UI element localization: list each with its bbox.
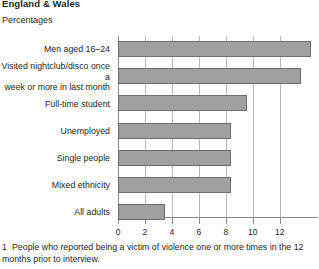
bar <box>118 68 301 84</box>
bar-row <box>118 63 312 90</box>
footnote: 1People who reported being a victim of v… <box>2 242 317 265</box>
bar <box>118 41 311 57</box>
x-tick-label: 8 <box>223 227 228 237</box>
bar-chart: Men aged 16–24Visited nightclub/disco on… <box>0 30 319 236</box>
plot-area: 024681012 <box>118 36 312 227</box>
bar <box>118 177 231 193</box>
category-label: Mixed ethnicity <box>0 172 114 199</box>
x-tick-label: 6 <box>196 227 201 237</box>
category-label: All adults <box>0 199 114 226</box>
category-label: Unemployed <box>0 118 114 145</box>
x-tick-label: 12 <box>275 227 284 237</box>
x-tick-label: 10 <box>248 227 257 237</box>
bar-row <box>118 118 312 145</box>
category-label: Single people <box>0 145 114 172</box>
bar <box>118 123 231 139</box>
bar-row <box>118 90 312 117</box>
units-label: Percentages <box>2 15 53 25</box>
bar-row <box>118 172 312 199</box>
bar-rows <box>118 36 312 218</box>
x-tick-label: 0 <box>116 227 121 237</box>
bar <box>118 204 165 220</box>
bar <box>118 150 231 166</box>
category-label: Men aged 16–24 <box>0 36 114 63</box>
bar-row <box>118 199 312 226</box>
category-label: Full-time student <box>0 90 114 117</box>
x-tick-label: 2 <box>143 227 148 237</box>
footnote-text: People who reported being a victim of vi… <box>2 242 303 264</box>
region-title: England & Wales <box>2 0 80 9</box>
category-label-column: Men aged 16–24Visited nightclub/disco on… <box>0 36 114 227</box>
bar <box>118 95 247 111</box>
bar-row <box>118 36 312 63</box>
bar-row <box>118 145 312 172</box>
x-tick-label: 4 <box>170 227 175 237</box>
footnote-number: 1 <box>2 242 12 254</box>
category-label: Visited nightclub/disco once aweek or mo… <box>0 63 114 90</box>
